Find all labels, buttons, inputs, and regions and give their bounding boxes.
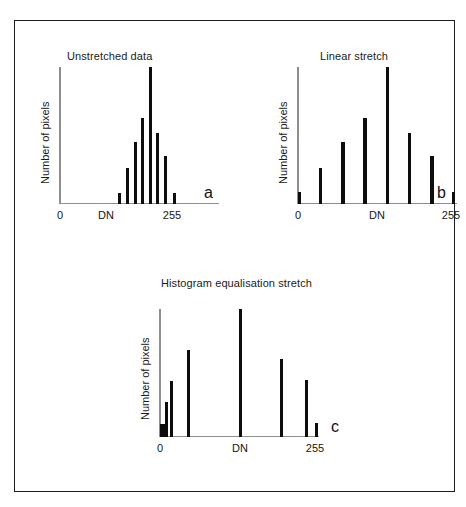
bar [430, 156, 433, 204]
bar [165, 402, 168, 437]
bar [298, 192, 301, 204]
panel-a: Unstretched data Number of pixels 0 DN 2… [15, 21, 225, 236]
bar [363, 118, 366, 204]
bar [170, 381, 173, 437]
panel-b-xtick-0: 0 [295, 209, 301, 221]
panel-b-xtick-255: 255 [442, 209, 460, 221]
panel-b-y-axis [297, 67, 299, 204]
panel-c-letter: c [331, 418, 339, 436]
panel-a-y-axis [59, 67, 61, 204]
bar [315, 423, 318, 437]
panel-a-letter: a [204, 184, 213, 202]
panel-c-plot [159, 309, 319, 437]
panel-b: Linear stretch Number of pixels 0 DN 255… [225, 21, 450, 236]
panel-c-ylabel: Number of pixels [139, 337, 151, 420]
bar [156, 133, 159, 204]
panel-a-x-axis [59, 203, 219, 205]
bar [319, 168, 322, 204]
figure-border: Unstretched data Number of pixels 0 DN 2… [14, 20, 455, 492]
bar [408, 133, 411, 204]
panel-c-xtick-255: 255 [306, 442, 324, 454]
panel-c-xtick-dn: DN [232, 442, 248, 454]
bar [149, 67, 152, 204]
panel-b-ylabel: Number of pixels [277, 101, 289, 184]
bar [126, 168, 129, 204]
bar [164, 156, 167, 204]
bar [452, 192, 455, 204]
panel-a-xtick-255: 255 [163, 209, 181, 221]
panel-c-title: Histogram equalisation stretch [161, 277, 312, 289]
bar [341, 142, 344, 204]
panel-a-title: Unstretched data [67, 50, 152, 62]
panel-b-plot [297, 67, 457, 204]
panel-c-xtick-0: 0 [157, 442, 163, 454]
bar [118, 193, 121, 204]
bar [305, 380, 308, 437]
panel-b-letter: b [437, 184, 446, 202]
panel-a-ylabel: Number of pixels [39, 101, 51, 184]
bar [280, 359, 283, 437]
bar [173, 193, 176, 204]
panel-c-y-axis [159, 309, 161, 437]
panel-b-xtick-dn: DN [369, 209, 385, 221]
panel-c: Histogram equalisation stretch Number of… [119, 269, 359, 484]
panel-a-plot [59, 67, 219, 204]
panel-a-xtick-dn: DN [98, 209, 114, 221]
bar [141, 118, 144, 204]
panel-a-xtick-0: 0 [57, 209, 63, 221]
bar [239, 309, 242, 437]
bar [187, 350, 190, 437]
bar [134, 142, 137, 204]
bar [386, 67, 389, 204]
panel-b-title: Linear stretch [320, 50, 388, 62]
